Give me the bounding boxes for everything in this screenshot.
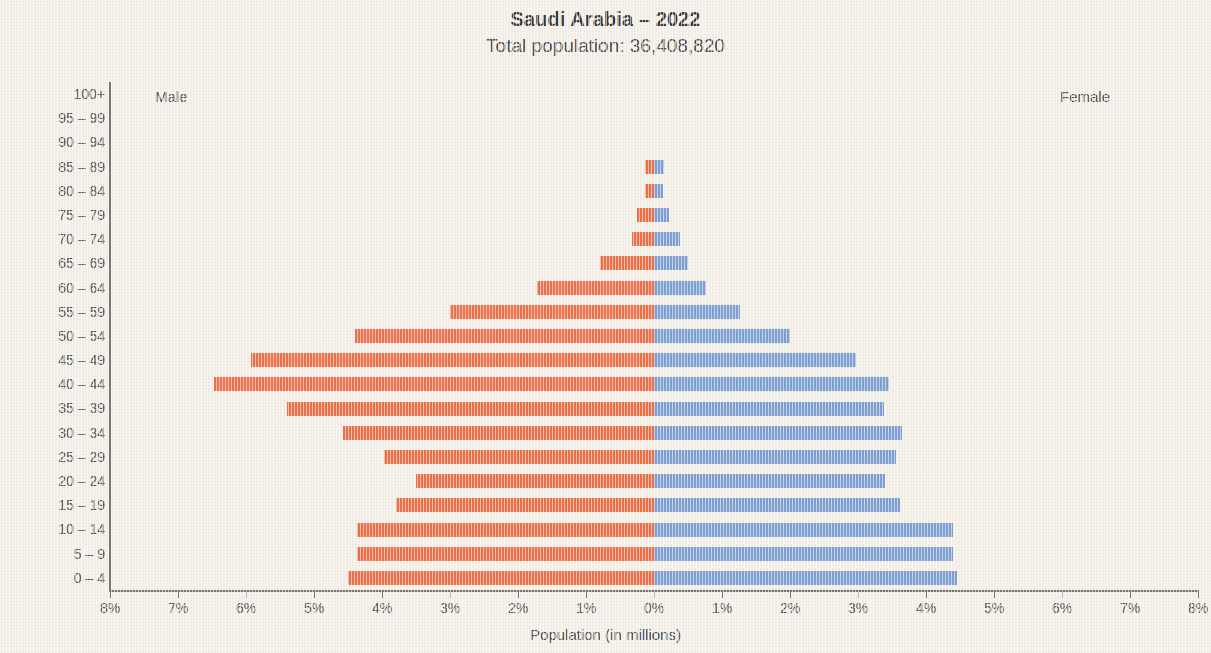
age-group-label: 60 – 64 xyxy=(5,276,105,300)
x-axis-tick xyxy=(246,590,247,598)
y-axis-line xyxy=(109,82,111,590)
age-group-label: 85 – 89 xyxy=(5,155,105,179)
bar-male xyxy=(537,281,654,295)
x-axis-tick-label: 7% xyxy=(148,600,208,616)
x-axis-tick-label: 7% xyxy=(1100,600,1160,616)
bar-male xyxy=(384,450,654,464)
age-group-label: 55 – 59 xyxy=(5,300,105,324)
pyramid-row: 20 – 24 xyxy=(110,469,1198,493)
age-group-label: 65 – 69 xyxy=(5,251,105,275)
bar-female xyxy=(654,232,680,246)
pyramid-row: 40 – 44 xyxy=(110,372,1198,396)
x-axis-tick xyxy=(586,590,587,598)
bar-male xyxy=(355,329,654,343)
bar-female xyxy=(654,184,663,198)
pyramid-row: 55 – 59 xyxy=(110,300,1198,324)
x-axis-tick xyxy=(518,590,519,598)
bar-male xyxy=(416,474,654,488)
bar-female xyxy=(654,160,664,174)
x-axis-tick xyxy=(994,590,995,598)
x-axis-tick-label: 8% xyxy=(80,600,140,616)
age-group-label: 45 – 49 xyxy=(5,348,105,372)
x-axis-tick xyxy=(926,590,927,598)
bar-female xyxy=(654,547,953,561)
age-group-label: 80 – 84 xyxy=(5,179,105,203)
x-axis-tick-label: 1% xyxy=(692,600,752,616)
bar-male xyxy=(632,232,654,246)
x-axis-tick xyxy=(1130,590,1131,598)
x-axis-tick-label: 2% xyxy=(760,600,820,616)
age-group-label: 70 – 74 xyxy=(5,227,105,251)
pyramid-row: 80 – 84 xyxy=(110,179,1198,203)
x-axis-tick-label: 0% xyxy=(624,600,684,616)
x-axis-tick xyxy=(722,590,723,598)
age-group-label: 50 – 54 xyxy=(5,324,105,348)
x-axis-tick-label: 3% xyxy=(828,600,888,616)
x-axis-tick xyxy=(178,590,179,598)
bar-female xyxy=(654,256,688,270)
age-group-label: 35 – 39 xyxy=(5,396,105,420)
x-axis-tick-label: 4% xyxy=(896,600,956,616)
pyramid-row: 10 – 14 xyxy=(110,517,1198,541)
pyramid-row: 50 – 54 xyxy=(110,324,1198,348)
bar-male xyxy=(637,208,654,222)
pyramid-row: 45 – 49 xyxy=(110,348,1198,372)
x-axis-tick-label: 1% xyxy=(556,600,616,616)
x-axis-tick-label: 6% xyxy=(216,600,276,616)
x-axis-title: Population (in millions) xyxy=(0,626,1211,643)
pyramid-row: 0 – 4 xyxy=(110,566,1198,590)
pyramid-row: 15 – 19 xyxy=(110,493,1198,517)
bar-male xyxy=(645,184,654,198)
bar-female xyxy=(654,353,856,367)
bar-female xyxy=(654,305,740,319)
x-axis-tick xyxy=(858,590,859,598)
age-group-label: 40 – 44 xyxy=(5,372,105,396)
pyramid-row: 25 – 29 xyxy=(110,445,1198,469)
pyramid-row: 95 – 99 xyxy=(110,106,1198,130)
age-group-label: 20 – 24 xyxy=(5,469,105,493)
age-group-label: 95 – 99 xyxy=(5,106,105,130)
pyramid-row: 60 – 64 xyxy=(110,276,1198,300)
pyramid-row: 70 – 74 xyxy=(110,227,1198,251)
pyramid-row: 30 – 34 xyxy=(110,421,1198,445)
bar-male xyxy=(357,547,654,561)
age-group-label: 5 – 9 xyxy=(5,542,105,566)
bar-male xyxy=(348,571,654,585)
x-axis-tick xyxy=(314,590,315,598)
x-axis-tick xyxy=(654,590,655,598)
pyramid-row: 90 – 94 xyxy=(110,130,1198,154)
bar-female xyxy=(654,208,669,222)
x-axis-tick xyxy=(790,590,791,598)
pyramid-row: 65 – 69 xyxy=(110,251,1198,275)
bar-male xyxy=(214,377,654,391)
bar-female xyxy=(654,377,889,391)
x-axis-tick xyxy=(450,590,451,598)
x-axis-tick xyxy=(110,590,111,598)
x-axis-tick-label: 6% xyxy=(1032,600,1092,616)
bar-female xyxy=(654,402,884,416)
age-group-label: 30 – 34 xyxy=(5,421,105,445)
x-axis-tick-label: 4% xyxy=(352,600,412,616)
bar-male xyxy=(450,305,654,319)
bar-female xyxy=(654,523,953,537)
pyramid-row: 100+ xyxy=(110,82,1198,106)
bar-male xyxy=(287,402,654,416)
age-group-label: 25 – 29 xyxy=(5,445,105,469)
bar-female xyxy=(654,281,706,295)
age-group-label: 10 – 14 xyxy=(5,517,105,541)
age-group-label: 0 – 4 xyxy=(5,566,105,590)
x-axis-tick xyxy=(382,590,383,598)
bar-female xyxy=(654,426,902,440)
x-axis-tick-label: 5% xyxy=(284,600,344,616)
x-axis-tick xyxy=(1198,590,1199,598)
bar-male xyxy=(600,256,654,270)
bar-female xyxy=(654,474,885,488)
x-axis-tick-label: 3% xyxy=(420,600,480,616)
age-group-label: 75 – 79 xyxy=(5,203,105,227)
x-axis-tick-label: 2% xyxy=(488,600,548,616)
bar-female xyxy=(654,498,900,512)
age-group-label: 90 – 94 xyxy=(5,130,105,154)
bar-male xyxy=(343,426,654,440)
chart-title: Saudi Arabia – 2022 xyxy=(0,6,1211,32)
x-axis-tick-label: 5% xyxy=(964,600,1024,616)
